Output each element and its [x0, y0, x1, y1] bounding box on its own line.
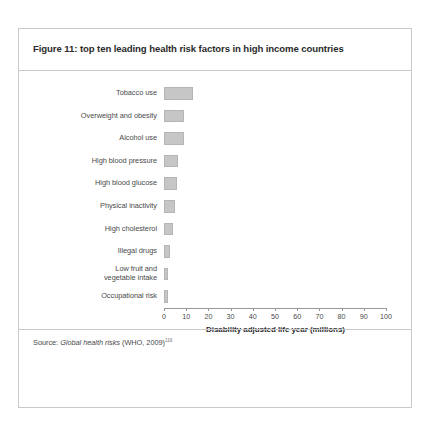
- x-axis-tick: [275, 308, 276, 311]
- bar-row: [164, 172, 386, 195]
- x-axis-tick: [297, 308, 298, 311]
- x-axis-tick-label: 60: [293, 312, 301, 321]
- x-axis-tick: [364, 308, 365, 311]
- bar: [164, 87, 193, 100]
- x-axis-tick: [319, 308, 320, 311]
- x-axis-tick-label: 50: [271, 312, 279, 321]
- bar: [164, 177, 177, 190]
- bar: [164, 132, 184, 145]
- x-axis-tick-label: 40: [249, 312, 257, 321]
- category-label: Occupational risk: [101, 292, 157, 301]
- x-axis-tick-label: 20: [204, 312, 212, 321]
- bar: [164, 245, 170, 258]
- x-axis-tick-label: 100: [380, 312, 392, 321]
- category-label-row: High blood glucose: [25, 172, 157, 195]
- plot-area: Tobacco useOverweight and obesityAlcohol…: [19, 70, 411, 360]
- bar-row: [164, 195, 386, 218]
- category-label-row: Low fruit andvegetable intake: [25, 263, 157, 286]
- x-axis-tick: [186, 308, 187, 311]
- category-label: Low fruit andvegetable intake: [104, 265, 157, 282]
- bar: [164, 155, 178, 168]
- source-title: Global health risks: [60, 338, 120, 347]
- bar-row: [164, 240, 386, 263]
- bar: [164, 223, 173, 236]
- bar-row: [164, 285, 386, 308]
- x-axis-tick: [253, 308, 254, 311]
- figure-title: Figure 11: top ten leading health risk f…: [33, 43, 403, 55]
- category-label-row: Physical inactivity: [25, 195, 157, 218]
- bar: [164, 200, 175, 213]
- bar-row: [164, 105, 386, 128]
- category-label-row: Occupational risk: [25, 285, 157, 308]
- figure-container: Figure 11: top ten leading health risk f…: [18, 28, 412, 408]
- category-label: High blood pressure: [92, 157, 157, 166]
- category-label: High blood glucose: [95, 179, 157, 188]
- bar: [164, 290, 168, 303]
- x-axis-tick-label: 90: [360, 312, 368, 321]
- x-axis-tick-label: 70: [315, 312, 323, 321]
- bars-container: [164, 82, 386, 308]
- category-label: Illegal drugs: [118, 247, 157, 256]
- x-axis-tick: [164, 308, 165, 311]
- x-axis-tick-label: 80: [338, 312, 346, 321]
- source-prefix: Source:: [33, 338, 60, 347]
- bar: [164, 110, 184, 123]
- bar-row: [164, 263, 386, 286]
- category-label: Physical inactivity: [100, 202, 157, 211]
- category-label-row: Tobacco use: [25, 82, 157, 105]
- bar: [164, 268, 168, 281]
- x-axis-tick-label: 0: [162, 312, 166, 321]
- x-axis-tick: [386, 308, 387, 311]
- category-label: Tobacco use: [116, 89, 157, 98]
- bar-row: [164, 127, 386, 150]
- category-label: Alcohol use: [119, 134, 157, 143]
- bar-row: [164, 150, 386, 173]
- source-superscript: 116: [165, 338, 173, 343]
- category-label: Overweight and obesity: [81, 112, 157, 121]
- category-label-row: Overweight and obesity: [25, 105, 157, 128]
- bar-row: [164, 218, 386, 241]
- source-suffix: (WHO, 2009): [120, 338, 165, 347]
- source-divider: [19, 329, 411, 330]
- category-label-row: High blood pressure: [25, 150, 157, 173]
- bar-row: [164, 82, 386, 105]
- x-axis-tick-label: 10: [182, 312, 190, 321]
- category-axis-labels: Tobacco useOverweight and obesityAlcohol…: [25, 82, 157, 308]
- category-label-row: Alcohol use: [25, 127, 157, 150]
- x-axis-tick: [208, 308, 209, 311]
- category-label: High cholesterol: [105, 225, 157, 234]
- x-axis-tick: [342, 308, 343, 311]
- x-axis-tick: [231, 308, 232, 311]
- category-label-row: High cholesterol: [25, 218, 157, 241]
- source-note: Source: Global health risks (WHO, 2009)1…: [33, 338, 172, 347]
- x-axis-tick-label: 30: [227, 312, 235, 321]
- category-label-row: Illegal drugs: [25, 240, 157, 263]
